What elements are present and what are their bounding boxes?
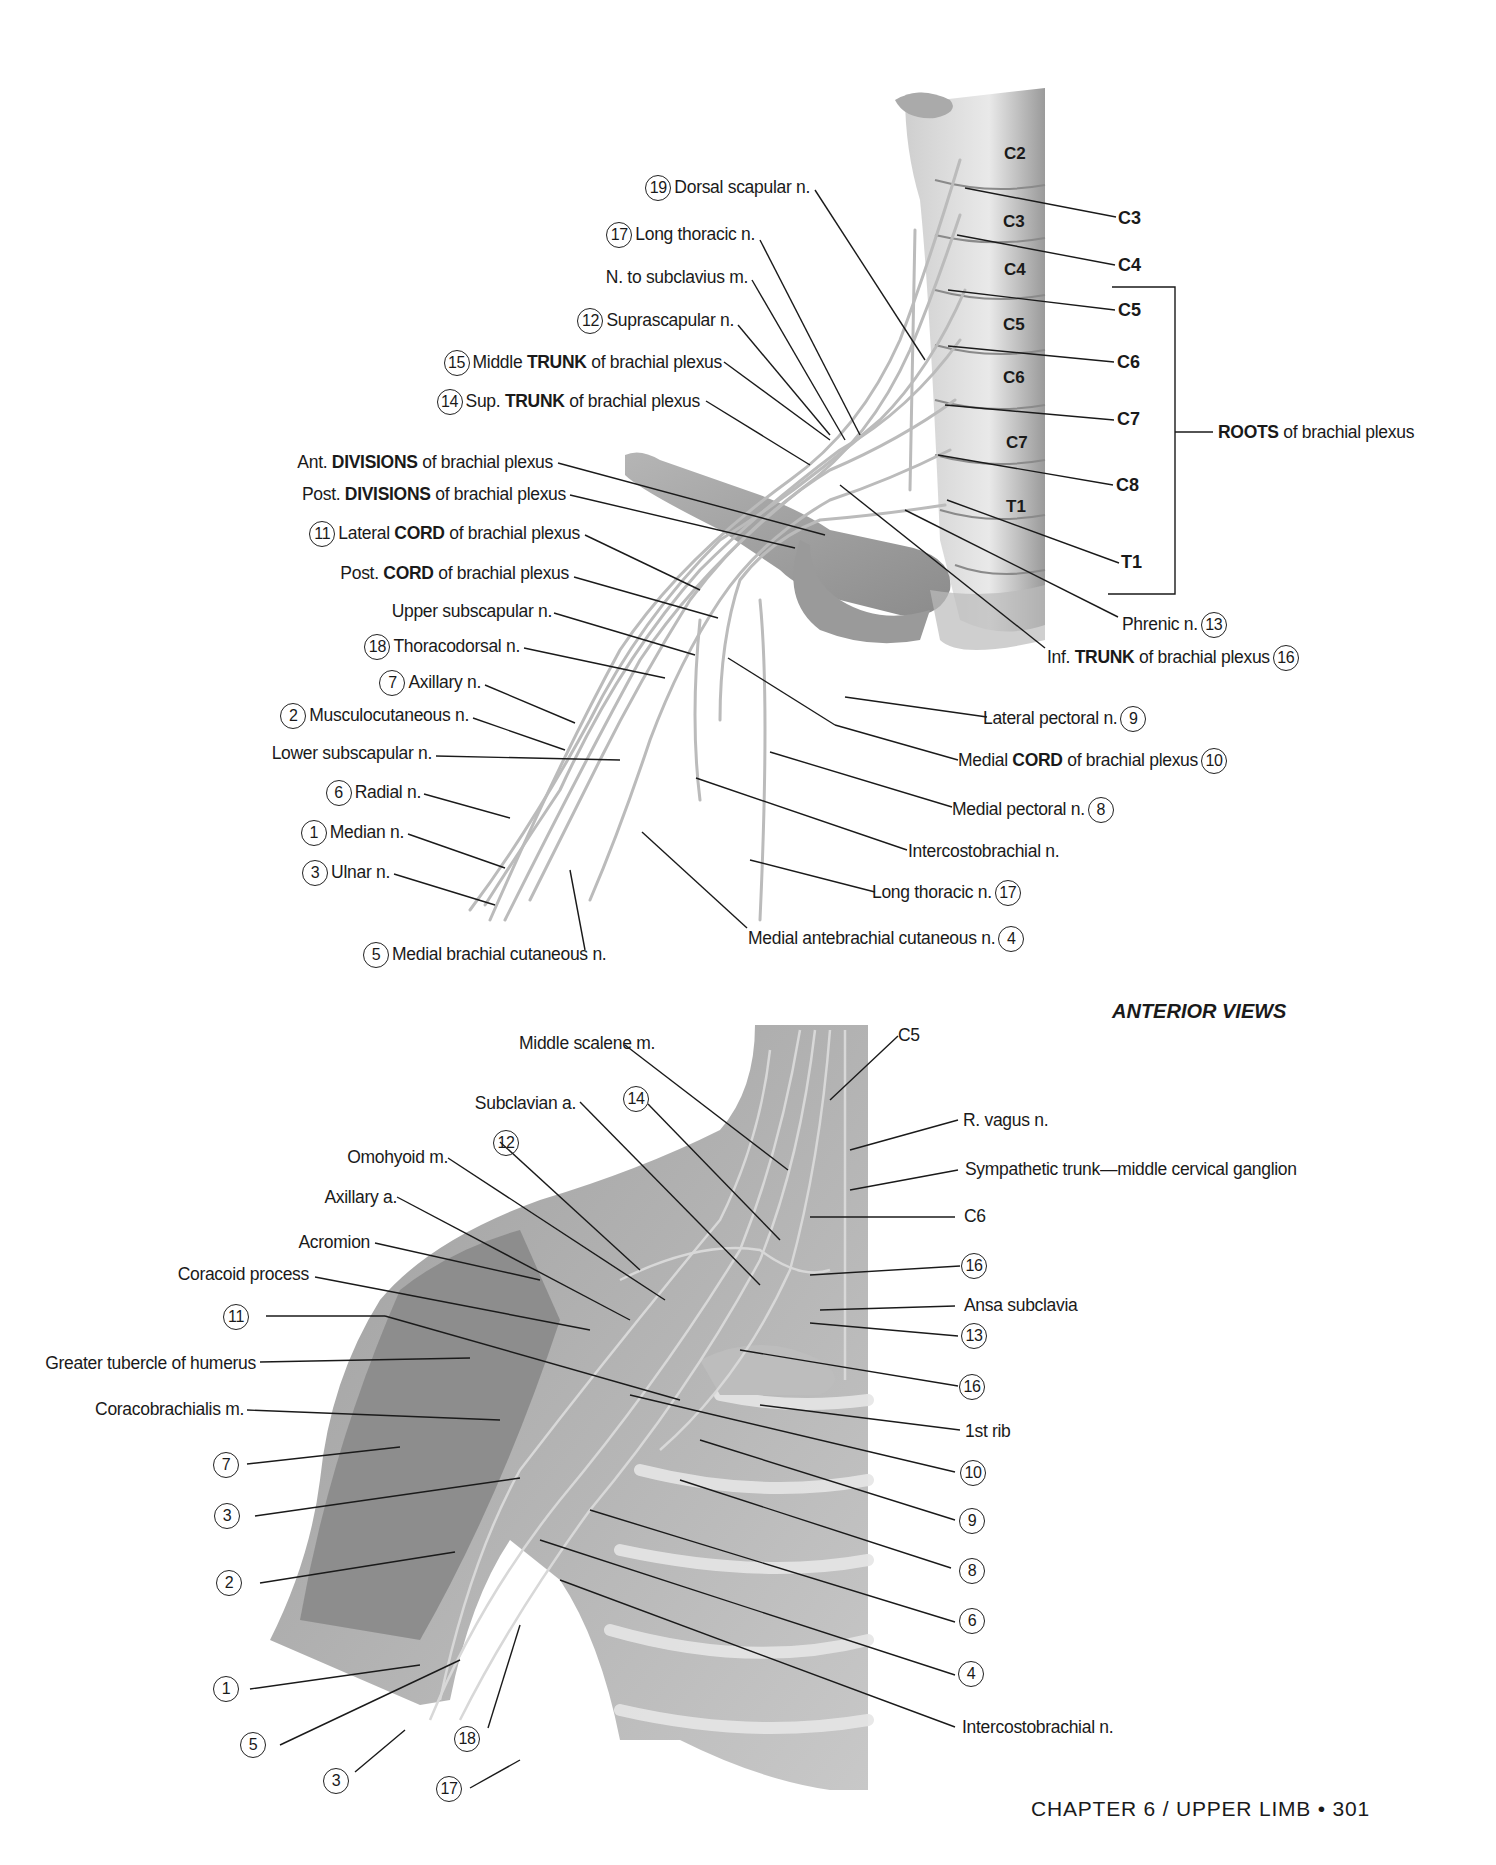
label-axillary-n: 7Axillary n. (376, 670, 481, 696)
label-subclavian-a: Subclavian a. (475, 1092, 576, 1114)
label-coracobrachialis-m: Coracobrachialis m. (95, 1398, 244, 1420)
root-label-t1: T1 (1121, 552, 1142, 573)
label-phrenic-n: Phrenic n.13 (1122, 612, 1230, 638)
label-2: 2 (213, 1570, 245, 1596)
root-label-c3: C3 (1118, 208, 1141, 229)
label-13: 13 (958, 1323, 990, 1349)
label-c5: C5 (898, 1024, 920, 1046)
label-8: 8 (956, 1558, 988, 1584)
vertebra-label: C5 (1003, 315, 1025, 335)
label-9: 9 (956, 1508, 988, 1534)
label-c6: C6 (964, 1205, 986, 1227)
label-intercostobrachial-n-bottom: Intercostobrachial n. (962, 1716, 1113, 1738)
label-intercostobrachial-n: Intercostobrachial n. (908, 840, 1059, 862)
label-5: 5 (237, 1732, 269, 1758)
vertebra-label: C4 (1004, 260, 1026, 280)
label-superior-trunk: 14Sup. TRUNK of brachial plexus (434, 389, 700, 415)
label-suprascapular-n: 12Suprascapular n. (574, 308, 734, 334)
label-radial-n: 6Radial n. (323, 780, 421, 806)
label-10: 10 (957, 1460, 989, 1486)
vertebra-label: C2 (1004, 144, 1026, 164)
roots-of-brachial-plexus-label: ROOTS of brachial plexus (1218, 421, 1414, 443)
label-ulnar-n: 3Ulnar n. (299, 860, 390, 886)
label-11: 11 (220, 1304, 252, 1330)
label-coracoid-process: Coracoid process (178, 1263, 309, 1285)
label-greater-tubercle-of-humerus: Greater tubercle of humerus (45, 1352, 256, 1374)
label-14: 14 (620, 1086, 652, 1112)
label-18: 18 (451, 1726, 483, 1752)
label-16-upper: 16 (958, 1253, 990, 1279)
label-1st-rib: 1st rib (965, 1420, 1011, 1442)
label-medial-brachial-cutaneous-n: 5Medial brachial cutaneous n. (360, 942, 606, 968)
root-label-c4: C4 (1118, 255, 1141, 276)
root-label-c8: C8 (1116, 475, 1139, 496)
label-long-thoracic-n: 17Long thoracic n. (603, 222, 755, 248)
vertebra-label: C3 (1003, 212, 1025, 232)
label-1: 1 (210, 1676, 242, 1702)
root-label-c5: C5 (1118, 300, 1141, 321)
label-inferior-trunk: Inf. TRUNK of brachial plexus16 (1047, 645, 1302, 671)
root-label-c7: C7 (1117, 409, 1140, 430)
label-n-to-subclavius: N. to subclavius m. (606, 266, 748, 288)
label-lateral-pectoral-n: Lateral pectoral n.9 (983, 706, 1149, 732)
label-acromion: Acromion (298, 1231, 370, 1253)
label-7: 7 (210, 1452, 242, 1478)
root-label-c6: C6 (1117, 352, 1140, 373)
label-r-vagus-n: R. vagus n. (963, 1109, 1048, 1131)
label-posterior-divisions: Post. DIVISIONS of brachial plexus (302, 483, 566, 505)
vertebra-label: T1 (1006, 497, 1026, 517)
label-long-thoracic-n-lower: Long thoracic n.17 (872, 880, 1024, 906)
label-posterior-cord: Post. CORD of brachial plexus (340, 562, 569, 584)
label-axillary-a: Axillary a. (324, 1186, 397, 1208)
label-3-upper: 3 (211, 1503, 243, 1529)
label-4: 4 (955, 1661, 987, 1687)
label-middle-scalene-m: Middle scalene m. (519, 1032, 655, 1054)
label-upper-subscapular-n: Upper subscapular n. (392, 600, 552, 622)
vertebra-label: C6 (1003, 368, 1025, 388)
label-medial-pectoral-n: Medial pectoral n.8 (952, 797, 1117, 823)
label-16-lower: 16 (956, 1374, 988, 1400)
label-thoracodorsal-n: 18Thoracodorsal n. (361, 634, 520, 660)
label-3-lower: 3 (320, 1768, 352, 1794)
label-medial-cord: Medial CORD of brachial plexus10 (958, 748, 1230, 774)
label-musculocutaneous-n: 2Musculocutaneous n. (277, 703, 469, 729)
label-omohyoid-m: Omohyoid m. (347, 1146, 448, 1168)
label-6: 6 (956, 1608, 988, 1634)
label-dorsal-scapular-n: 19Dorsal scapular n. (642, 175, 810, 201)
view-title: ANTERIOR VIEWS (1112, 1000, 1286, 1023)
label-lower-subscapular-n: Lower subscapular n. (272, 742, 432, 764)
page-footer: CHAPTER 6 / UPPER LIMB • 301 (1031, 1797, 1370, 1821)
label-sympathetic-trunk: Sympathetic trunk—middle cervical gangli… (965, 1158, 1297, 1180)
label-median-n: 1Median n. (298, 820, 404, 846)
label-medial-antebrachial-cutaneous-n: Medial antebrachial cutaneous n.4 (748, 926, 1027, 952)
label-12: 12 (490, 1130, 522, 1156)
label-middle-trunk: 15Middle TRUNK of brachial plexus (441, 350, 722, 376)
vertebra-label: C7 (1006, 433, 1028, 453)
label-lateral-cord: 11Lateral CORD of brachial plexus (306, 521, 580, 547)
label-anterior-divisions: Ant. DIVISIONS of brachial plexus (297, 451, 553, 473)
label-ansa-subclavia: Ansa subclavia (964, 1294, 1078, 1316)
label-17: 17 (433, 1776, 465, 1802)
